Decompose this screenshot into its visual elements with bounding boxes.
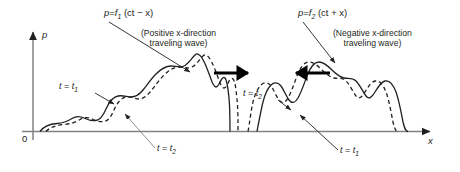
rlt-equals: = bbox=[345, 145, 350, 155]
middle-time-label: t = t2 bbox=[243, 88, 262, 100]
mt-subscript: 2 bbox=[258, 93, 262, 100]
right-equation-label: p=f2 (ct + x) bbox=[298, 8, 347, 21]
leader-mid-t bbox=[278, 100, 291, 110]
left-lower-time-label: t = t2 bbox=[157, 143, 176, 155]
lut-t: t bbox=[59, 81, 62, 91]
rlt-subscript: 1 bbox=[355, 150, 359, 157]
leader-left-upper-t bbox=[95, 93, 114, 104]
left-caption-line2: traveling wave) bbox=[141, 39, 216, 49]
y-axis-label: p bbox=[42, 30, 47, 41]
right-caption-line2: traveling wave) bbox=[333, 39, 412, 49]
left-caption: (Positive x-direction traveling wave) bbox=[141, 29, 216, 49]
lut-subscript: 1 bbox=[74, 86, 78, 93]
left-eq-argument: (ct − x) bbox=[124, 7, 153, 18]
left-eq-subscript: 1 bbox=[118, 13, 122, 20]
right-lower-time-label: t = t1 bbox=[340, 145, 359, 157]
llt-subscript: 2 bbox=[172, 148, 176, 155]
origin-label: 0 bbox=[22, 134, 27, 145]
left-equation-label: p=f1 (ct − x) bbox=[104, 8, 153, 21]
x-axis-label: x bbox=[428, 136, 433, 147]
mt-t: t bbox=[243, 88, 246, 98]
right-wave-solid-curve bbox=[257, 62, 408, 132]
llt-t: t bbox=[157, 143, 160, 153]
lut-equals: = bbox=[64, 81, 69, 91]
leader-right-equation bbox=[303, 22, 335, 63]
mt-equals: = bbox=[248, 88, 253, 98]
leader-right-lower-t bbox=[300, 115, 338, 150]
right-eq-subscript: 2 bbox=[312, 13, 316, 20]
left-upper-time-label: t = t1 bbox=[59, 81, 78, 93]
right-eq-argument: (ct + x) bbox=[318, 7, 347, 18]
llt-equals: = bbox=[162, 143, 167, 153]
right-caption: (Negative x-direction traveling wave) bbox=[333, 29, 412, 49]
rlt-t: t bbox=[340, 145, 343, 155]
